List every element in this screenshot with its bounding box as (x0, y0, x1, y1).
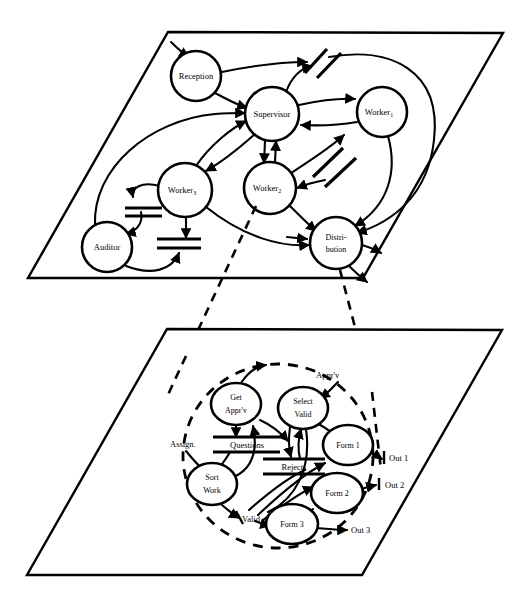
node-form-2[interactable]: Form 2 (311, 473, 363, 513)
node-form-1-label: Form 1 (336, 441, 359, 450)
node-worker-1-subscript: 1 (390, 112, 393, 118)
node-distribution[interactable]: Distri- bution (310, 217, 362, 269)
node-sort-work-label-line2: Work (203, 486, 221, 495)
node-form-2-label: Form 2 (325, 489, 348, 498)
two-level-process-diagram: Reception Supervisor Worker1 Worker2 Wor… (0, 0, 531, 604)
node-distribution-label-line1: Distri- (326, 233, 347, 242)
node-get-apprv-label-line1: Get (230, 393, 242, 402)
node-get-apprv-label-line2: Appr'v (225, 406, 247, 415)
node-select-valid[interactable]: Select Valid (278, 387, 328, 429)
node-worker-2-label: Worker (253, 183, 278, 193)
node-worker-2-subscript: 2 (278, 188, 281, 194)
node-form-1[interactable]: Form 1 (323, 425, 373, 465)
rejects-store-label: Rejects (281, 462, 306, 472)
lower-plane-group: Questions Rejects Get Appr'v Select Vali… (27, 329, 502, 575)
node-select-valid-label-line1: Select (293, 397, 313, 406)
node-sort-work-label-line1: Sort (205, 473, 219, 482)
node-worker-2[interactable]: Worker2 (244, 162, 296, 214)
node-reception-label: Reception (179, 71, 214, 81)
out1-edge-label: Out 1 (389, 453, 408, 463)
node-worker-1-label: Worker (365, 107, 390, 117)
node-worker-3-label: Worker (168, 185, 193, 195)
valid-edge-label: Valid (242, 514, 261, 524)
svg-text:Worker2: Worker2 (253, 183, 281, 194)
out2-edge-label: Out 2 (385, 480, 404, 490)
node-supervisor-label: Supervisor (254, 109, 291, 119)
upper-plane-group: Reception Supervisor Worker1 Worker2 Wor… (28, 32, 503, 282)
out3-edge-label: Out 3 (351, 525, 370, 535)
node-sort-work[interactable]: Sort Work (187, 463, 237, 505)
node-select-valid-label-line2: Valid (295, 410, 312, 419)
node-worker-3-subscript: 3 (193, 190, 196, 196)
node-form-3[interactable]: Form 3 (266, 504, 318, 544)
svg-text:Worker1: Worker1 (365, 107, 393, 118)
node-get-apprv[interactable]: Get Appr'v (211, 383, 261, 425)
questions-store-label: Questions (230, 440, 264, 450)
node-worker-3[interactable]: Worker3 (158, 163, 212, 217)
node-auditor-label: Auditor (94, 242, 121, 252)
node-form-3-label: Form 3 (280, 520, 303, 529)
node-distribution-label-line2: bution (326, 245, 346, 254)
svg-text:Worker3: Worker3 (168, 185, 196, 196)
assign-edge-label: Assign. (170, 439, 196, 449)
figure-canvas: Reception Supervisor Worker1 Worker2 Wor… (0, 0, 531, 604)
node-auditor[interactable]: Auditor (82, 222, 132, 272)
node-reception[interactable]: Reception (171, 51, 221, 101)
node-worker-1[interactable]: Worker1 (357, 87, 407, 137)
apprv-edge-label: Appr'v (316, 370, 340, 380)
node-supervisor[interactable]: Supervisor (245, 87, 299, 141)
